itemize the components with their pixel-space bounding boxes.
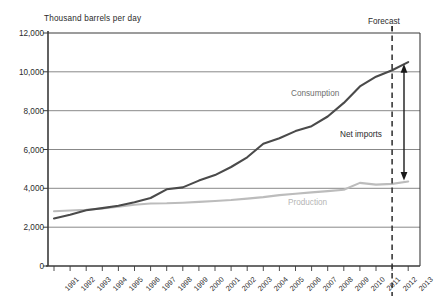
x-tick-label-2008: 2008 (337, 275, 355, 293)
x-tick-label-1991: 1991 (63, 275, 81, 293)
x-tick-label-1995: 1995 (127, 275, 145, 293)
x-tick-label-2003: 2003 (256, 275, 274, 293)
net-imports-label: Net imports (340, 130, 382, 139)
x-tick-label-2013: 2013 (417, 275, 435, 293)
consumption-series-label: Consumption (291, 89, 339, 98)
x-tick-label-2001: 2001 (224, 275, 242, 293)
x-tick-label-2000: 2000 (208, 275, 226, 293)
x-tick-label-1996: 1996 (143, 275, 161, 293)
production-series-label: Production (288, 198, 327, 207)
x-tick-label-2005: 2005 (288, 275, 306, 293)
x-tick-label-1993: 1993 (95, 275, 113, 293)
x-tick-label-2006: 2006 (304, 275, 322, 293)
x-tick-label-2009: 2009 (353, 275, 371, 293)
x-tick-label-1999: 1999 (192, 275, 210, 293)
x-tick-label-2010: 2010 (369, 275, 387, 293)
x-tick-label-2004: 2004 (272, 275, 290, 293)
x-tick-label-1998: 1998 (176, 275, 194, 293)
x-tick-label-2012: 2012 (401, 275, 419, 293)
x-tick-label-2011: 2011 (385, 275, 403, 293)
x-tick-label-1992: 1992 (79, 275, 97, 293)
x-tick-label-2002: 2002 (240, 275, 258, 293)
x-tick-label-2007: 2007 (320, 275, 338, 293)
x-tick-label-1997: 1997 (159, 275, 177, 293)
forecast-label: Forecast (368, 17, 400, 26)
x-tick-label-1994: 1994 (111, 275, 129, 293)
